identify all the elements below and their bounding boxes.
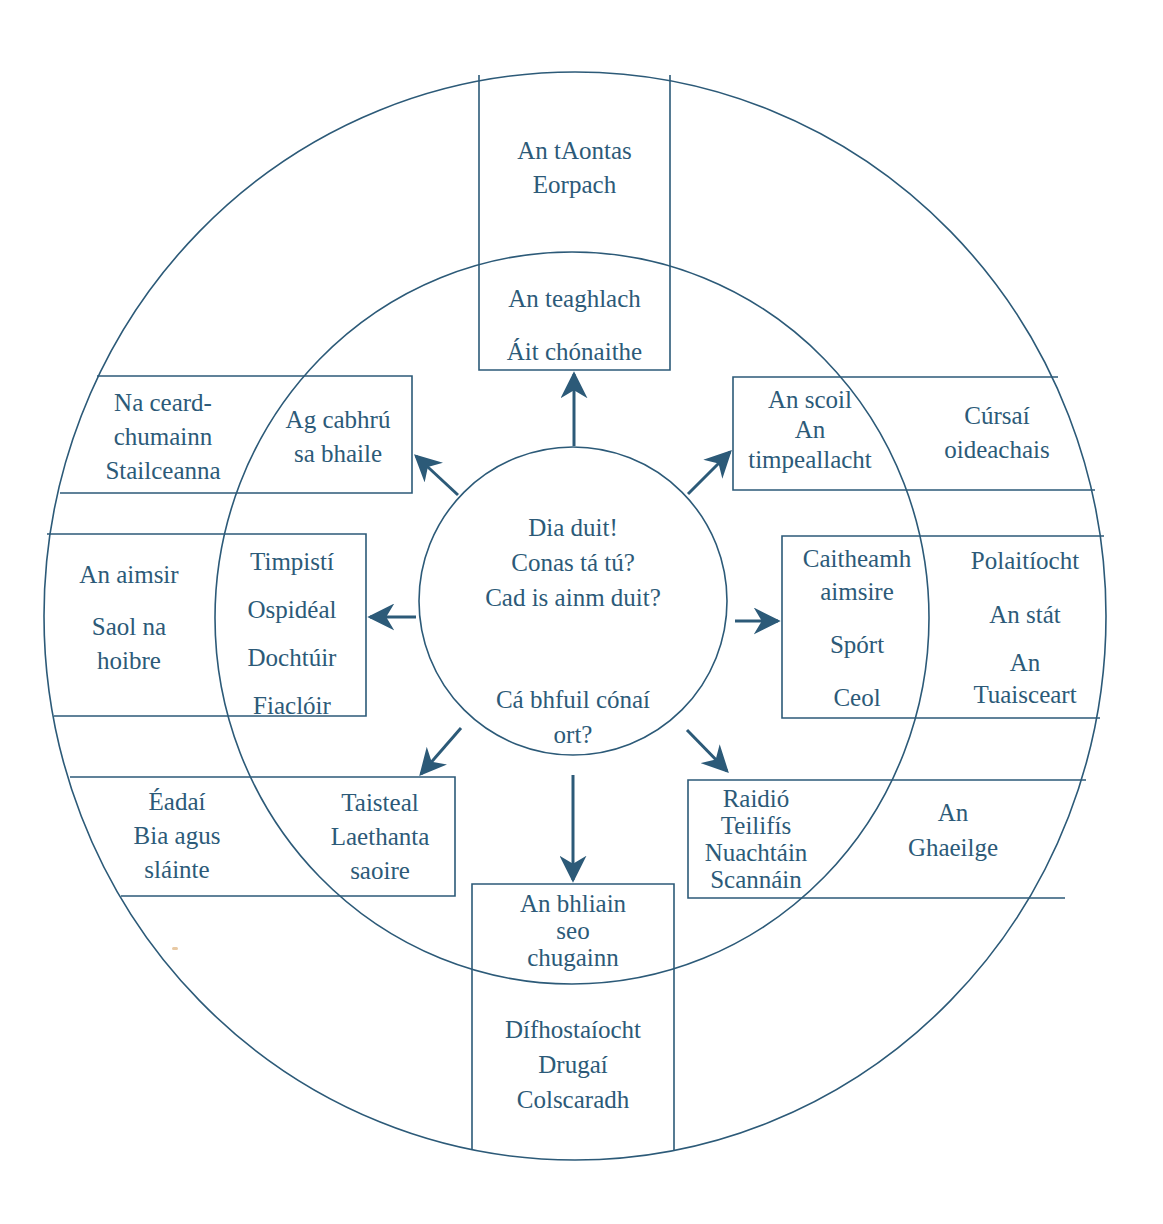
- topic-top-left-inner: Ag cabhrú sa bhaile: [265, 403, 411, 471]
- topic-label: An tAontas: [479, 134, 670, 168]
- topic-label: An: [735, 415, 885, 445]
- topic-label: sláinte: [102, 853, 252, 887]
- topic-bottom-outer: Dífhostaíocht Drugaí Colscaradh: [472, 1012, 674, 1117]
- center-greeting-line: Dia duit!: [423, 510, 723, 545]
- topic-label: Fiaclóir: [222, 682, 362, 730]
- paper-stain: [172, 947, 178, 950]
- topic-top-left-outer: Na ceard- chumainn Stailceanna: [78, 386, 248, 488]
- topic-label: An: [883, 795, 1023, 830]
- arrow-top-right: [688, 452, 730, 494]
- topic-label: Ag cabhrú: [265, 403, 411, 437]
- center-greetings: Dia duit! Conas tá tú? Cad is ainm duit?: [423, 510, 723, 615]
- topic-right-inner: Caitheamh aimsire Spórt Ceol: [784, 542, 930, 714]
- topic-label: chugainn: [472, 944, 674, 971]
- topic-label: Bia agus: [102, 819, 252, 853]
- center-question-line: ort?: [423, 717, 723, 752]
- topic-label: Éadaí: [102, 785, 252, 819]
- topic-label: Stailceanna: [78, 454, 248, 488]
- topic-label: Caitheamh: [784, 542, 930, 575]
- topic-label: Ceol: [784, 681, 930, 714]
- topic-label: An aimsir: [50, 558, 208, 592]
- topic-label: Tuaisceart: [945, 679, 1105, 711]
- topic-label: Cúrsaí: [922, 399, 1072, 433]
- center-question-line: Cá bhfuil cónaí: [423, 682, 723, 717]
- topic-bottom-inner: An bhliain seo chugainn: [472, 890, 674, 971]
- topic-top-right-outer: Cúrsaí oideachais: [922, 399, 1072, 467]
- topic-label: An stát: [945, 599, 1105, 631]
- topic-bottom-right-inner: Raidió Teilifís Nuachtáin Scannáin: [690, 785, 822, 893]
- topic-label: timpeallacht: [735, 445, 885, 475]
- topic-left-outer: An aimsir Saol na hoibre: [50, 558, 208, 678]
- topic-label: Ghaeilge: [883, 830, 1023, 865]
- center-greeting-line: Conas tá tú?: [423, 545, 723, 580]
- topic-label: An scoil: [735, 385, 885, 415]
- topic-right-outer: Polaitíocht An stát An Tuaisceart: [945, 545, 1105, 711]
- topic-label: Timpistí: [222, 538, 362, 586]
- topic-label: Laethanta: [305, 820, 455, 854]
- topic-label: Raidió: [690, 785, 822, 812]
- topic-label: Dífhostaíocht: [472, 1012, 674, 1047]
- topic-bottom-right-outer: An Ghaeilge: [883, 795, 1023, 865]
- center-greeting-line: Cad is ainm duit?: [423, 580, 723, 615]
- topic-label: Scannáin: [690, 866, 822, 893]
- topic-bottom-left-inner: Taisteal Laethanta saoire: [305, 786, 455, 888]
- topic-label: Áit chónaithe: [479, 325, 670, 378]
- topic-label: Teilifís: [690, 812, 822, 839]
- topic-label: oideachais: [922, 433, 1072, 467]
- topic-label: chumainn: [78, 420, 248, 454]
- topic-label: An teaghlach: [479, 272, 670, 325]
- topic-label: An: [945, 647, 1105, 679]
- topic-top-inner: An teaghlach Áit chónaithe: [479, 272, 670, 378]
- topic-label: Spórt: [784, 628, 930, 661]
- topic-top-outer: An tAontas Eorpach: [479, 134, 670, 202]
- topic-label: aimsire: [784, 575, 930, 608]
- topic-label: Dochtúir: [222, 634, 362, 682]
- topic-top-right-inner: An scoil An timpeallacht: [735, 385, 885, 475]
- topic-label: saoire: [305, 854, 455, 888]
- topic-label: sa bhaile: [265, 437, 411, 471]
- topic-label: An bhliain: [472, 890, 674, 917]
- topic-wheel-diagram: Dia duit! Conas tá tú? Cad is ainm duit?…: [0, 0, 1163, 1224]
- topic-label: Drugaí: [472, 1047, 674, 1082]
- arrow-top-left: [416, 456, 458, 495]
- topic-label: Eorpach: [479, 168, 670, 202]
- topic-label: Ospidéal: [222, 586, 362, 634]
- topic-label: Nuachtáin: [690, 839, 822, 866]
- topic-bottom-left-outer: Éadaí Bia agus sláinte: [102, 785, 252, 887]
- topic-left-inner: Timpistí Ospidéal Dochtúir Fiaclóir: [222, 538, 362, 730]
- topic-label: Na ceard-: [78, 386, 248, 420]
- topic-label: Polaitíocht: [945, 545, 1105, 577]
- topic-label: Taisteal: [305, 786, 455, 820]
- topic-label: seo: [472, 917, 674, 944]
- topic-label: Saol na: [50, 610, 208, 644]
- center-question: Cá bhfuil cónaí ort?: [423, 682, 723, 752]
- topic-label: Colscaradh: [472, 1082, 674, 1117]
- topic-label: hoibre: [50, 644, 208, 678]
